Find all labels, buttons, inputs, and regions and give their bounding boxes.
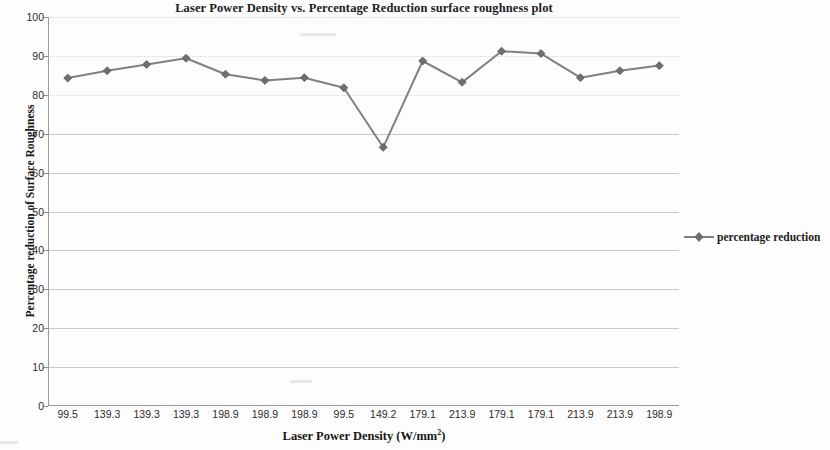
- data-point-marker: [221, 70, 229, 78]
- x-tick-label: 198.9: [629, 408, 689, 420]
- data-point-marker: [143, 60, 151, 68]
- y-tick-label: 40: [14, 244, 44, 256]
- y-tick-label: 50: [14, 206, 44, 218]
- y-tick-label: 100: [14, 11, 44, 23]
- plot-area: [48, 17, 679, 406]
- data-point-marker: [419, 57, 427, 65]
- y-tick-mark: [44, 56, 48, 57]
- scan-artifact: [0, 441, 18, 444]
- y-tick-mark: [44, 328, 48, 329]
- y-tick-label: 60: [14, 167, 44, 179]
- y-tick-label: 80: [14, 89, 44, 101]
- data-point-marker: [655, 62, 663, 70]
- series-percentage-reduction: [48, 17, 679, 406]
- chart-legend: percentage reduction: [684, 231, 820, 243]
- chart-screenshot: Laser Power Density vs. Percentage Reduc…: [0, 0, 830, 450]
- legend-label: percentage reduction: [717, 231, 820, 243]
- data-point-marker: [261, 76, 269, 84]
- y-tick-mark: [44, 406, 48, 407]
- y-tick-label: 10: [14, 361, 44, 373]
- data-point-marker: [64, 74, 72, 82]
- x-axis-title: Laser Power Density (W/mm2): [48, 428, 680, 444]
- y-tick-mark: [44, 173, 48, 174]
- y-tick-mark: [44, 17, 48, 18]
- y-tick-mark: [44, 95, 48, 96]
- data-point-marker: [182, 54, 190, 62]
- data-point-marker: [103, 67, 111, 75]
- y-tick-label: 90: [14, 50, 44, 62]
- chart-title: Laser Power Density vs. Percentage Reduc…: [48, 1, 680, 16]
- y-tick-mark: [44, 212, 48, 213]
- y-tick-mark: [44, 134, 48, 135]
- scan-artifact: [300, 33, 336, 36]
- scan-artifact: [290, 380, 312, 383]
- y-tick-label: 30: [14, 283, 44, 295]
- series-line: [68, 51, 660, 147]
- y-tick-label: 20: [14, 322, 44, 334]
- y-tick-label: 70: [14, 128, 44, 140]
- y-tick-mark: [44, 250, 48, 251]
- y-axis-tick-labels: 0102030405060708090100: [10, 17, 44, 406]
- data-point-marker: [616, 67, 624, 75]
- x-axis-tick-labels: 99.5139.3139.3139.3198.9198.9198.999.514…: [48, 408, 679, 424]
- y-tick-mark: [44, 367, 48, 368]
- diamond-marker-icon: [684, 231, 714, 243]
- y-tick-mark: [44, 289, 48, 290]
- data-point-marker: [300, 74, 308, 82]
